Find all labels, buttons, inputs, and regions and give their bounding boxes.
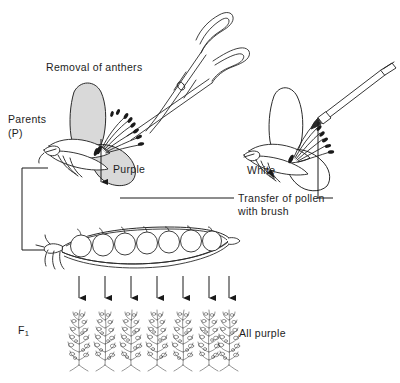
label-f1-letter: F — [18, 324, 25, 336]
label-parents-symbol: (P) — [8, 127, 23, 140]
label-f1-generation: F1 — [18, 324, 29, 338]
label-transfer-of-pollen: Transfer of pollen — [238, 192, 325, 205]
label-purple: Purple — [113, 163, 145, 176]
cross-pollination-diagram — [0, 0, 400, 383]
label-f1-subscript: 1 — [25, 329, 29, 338]
label-white: White — [247, 164, 275, 177]
label-with-brush: with brush — [238, 205, 289, 218]
label-parents: Parents — [8, 113, 46, 126]
label-all-purple: All purple — [239, 327, 286, 340]
diagram-background — [0, 0, 400, 383]
label-removal-of-anthers: Removal of anthers — [46, 61, 142, 74]
